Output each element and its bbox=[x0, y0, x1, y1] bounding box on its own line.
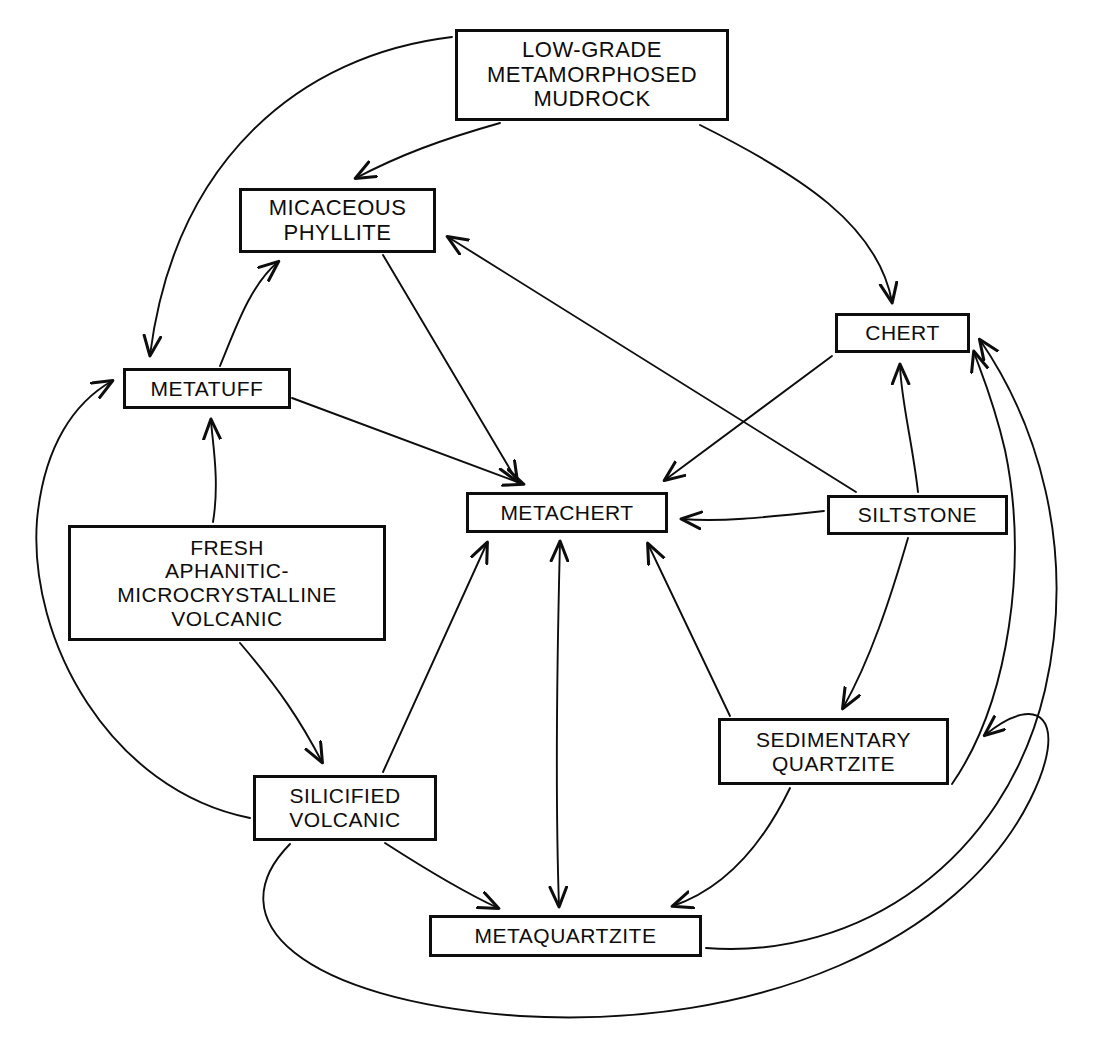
edge-low-grade-to-micaceous bbox=[356, 123, 500, 178]
node-label: CHERT bbox=[865, 321, 939, 345]
node-label: METACHERT bbox=[500, 501, 633, 525]
diagram-canvas: LOW-GRADE METAMORPHOSED MUDROCK MICACEOU… bbox=[0, 0, 1115, 1044]
node-chert[interactable]: CHERT bbox=[835, 313, 970, 353]
edge-siltstone-to-micaceous bbox=[448, 237, 856, 492]
edge-silicified-to-metaquartzite bbox=[385, 843, 498, 908]
edge-metatuff-to-metachert bbox=[292, 398, 523, 484]
node-sedimentary-quartzite[interactable]: SEDIMENTARY QUARTZITE bbox=[718, 718, 949, 785]
edge-micaceous-to-metachert bbox=[383, 255, 517, 481]
node-label: SILICIFIED VOLCANIC bbox=[289, 784, 400, 831]
edge-metachert-metaquartzite-bidirectional bbox=[557, 542, 560, 906]
node-label: SEDIMENTARY QUARTZITE bbox=[756, 728, 911, 775]
node-micaceous-phyllite[interactable]: MICACEOUS PHYLLITE bbox=[239, 188, 436, 253]
node-label: FRESH APHANITIC- MICROCRYSTALLINE VOLCAN… bbox=[117, 536, 337, 630]
node-silicified-volcanic[interactable]: SILICIFIED VOLCANIC bbox=[253, 775, 437, 841]
edge-siltstone-to-chert bbox=[900, 365, 918, 492]
edge-silicified-to-metachert bbox=[383, 543, 487, 772]
edge-sed-quartzite-to-metaquartzite bbox=[673, 788, 790, 906]
edge-metatuff-to-micaceous bbox=[220, 262, 278, 366]
node-siltstone[interactable]: SILTSTONE bbox=[827, 495, 1008, 535]
edge-sed-quartzite-to-metachert bbox=[648, 544, 730, 716]
edge-siltstone-to-sed-quartzite bbox=[843, 538, 908, 708]
node-label: LOW-GRADE METAMORPHOSED MUDROCK bbox=[487, 38, 697, 112]
node-metatuff[interactable]: METATUFF bbox=[123, 368, 291, 409]
node-metaquartzite[interactable]: METAQUARTZITE bbox=[429, 915, 702, 957]
edge-low-grade-to-chert bbox=[700, 125, 892, 302]
node-label: METATUFF bbox=[151, 377, 264, 401]
edge-sed-quartzite-to-chert-arc bbox=[952, 352, 1015, 784]
node-metachert[interactable]: METACHERT bbox=[466, 492, 668, 533]
edge-fresh-to-metatuff bbox=[211, 420, 216, 522]
edge-fresh-to-silicified bbox=[240, 643, 322, 762]
node-low-grade-metamorphosed-mudrock[interactable]: LOW-GRADE METAMORPHOSED MUDROCK bbox=[455, 29, 729, 121]
node-fresh-aphanitic-microcrystalline-volcanic[interactable]: FRESH APHANITIC- MICROCRYSTALLINE VOLCAN… bbox=[68, 525, 386, 641]
node-label: METAQUARTZITE bbox=[475, 924, 657, 948]
node-label: SILTSTONE bbox=[858, 503, 977, 527]
edge-siltstone-to-metachert bbox=[682, 511, 824, 520]
node-label: MICACEOUS PHYLLITE bbox=[269, 196, 407, 245]
